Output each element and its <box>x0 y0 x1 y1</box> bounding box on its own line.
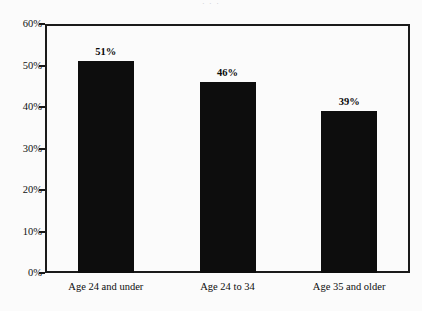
y-axis-tick-mark <box>39 231 45 233</box>
y-axis-tick-mark <box>39 23 45 25</box>
y-axis-tick-label: 0% <box>2 268 42 278</box>
y-axis-tick-label: 40% <box>2 102 42 112</box>
bar <box>321 111 377 273</box>
y-axis-tick-label: 20% <box>2 185 42 195</box>
y-axis-tick-label: 10% <box>2 227 42 237</box>
bar <box>78 61 134 273</box>
y-axis-tick-mark <box>39 148 45 150</box>
category-label: Age 24 to 34 <box>158 281 298 293</box>
bar-value-label: 39% <box>309 96 389 107</box>
category-label: Age 24 and under <box>36 281 176 293</box>
y-axis-tick-label: 60% <box>2 19 42 29</box>
y-axis-tick-mark <box>39 189 45 191</box>
bar <box>200 82 256 273</box>
bar-value-label: 51% <box>66 46 146 57</box>
y-axis-tick-mark <box>39 65 45 67</box>
category-label: Age 35 and older <box>279 281 419 293</box>
y-axis-tick-mark <box>39 272 45 274</box>
bar-chart-figure: · · · 0%10%20%30%40%50%60% 51%46%39% Age… <box>0 0 422 311</box>
y-axis-tick-label: 50% <box>2 61 42 71</box>
y-axis-tick-label: 30% <box>2 144 42 154</box>
y-axis-tick-mark <box>39 106 45 108</box>
bar-value-label: 46% <box>188 67 268 78</box>
cropped-title-remnant: · · · <box>0 0 422 7</box>
